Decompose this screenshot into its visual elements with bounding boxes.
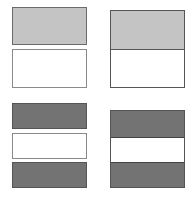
light-shaded-box [12, 7, 87, 45]
dark-shaded-band-top [111, 111, 184, 138]
dark-shaded-band-bottom [111, 162, 184, 187]
white-box-middle [12, 133, 87, 159]
panel-bottom-right [110, 110, 185, 188]
dark-shaded-box-top [12, 103, 87, 129]
light-shaded-band [111, 11, 184, 50]
dark-shaded-box-bottom [12, 162, 87, 188]
white-band [111, 50, 184, 87]
panel-top-right [110, 10, 185, 88]
white-box [12, 49, 87, 88]
white-band-middle [111, 138, 184, 162]
